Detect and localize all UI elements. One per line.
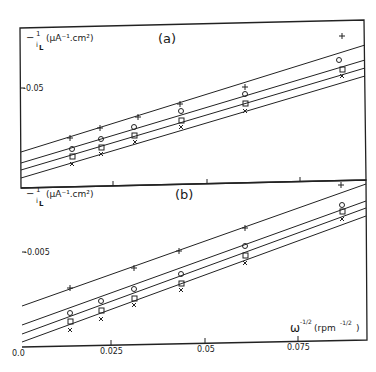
figure: 0.0 0.025 0.05 0.075 -0.05 -0.005 − 1 i … xyxy=(0,0,376,372)
panel-label-b: (b) xyxy=(175,187,193,202)
panel-label-a: (a) xyxy=(158,31,176,46)
x-axis-label: ω -1/2 (rpm -1/2 ) xyxy=(290,318,360,335)
xlabel-close: ) xyxy=(356,323,360,333)
ylabel-numerator: 1 xyxy=(36,186,40,194)
ylabel-units: (μA⁻¹.cm²) xyxy=(46,33,93,43)
marker-square xyxy=(70,67,345,159)
fit-line-plus xyxy=(21,45,365,152)
marker-cross xyxy=(70,74,344,166)
fit-line-circle xyxy=(22,201,366,325)
xlabel-units-exponent: -1/2 xyxy=(340,319,352,326)
ylabel-denominator: i xyxy=(36,197,38,205)
panel-b-markers xyxy=(67,182,345,332)
ylabel-prefix: − xyxy=(26,188,34,199)
fit-line-square xyxy=(21,68,365,170)
ylabel-units: (μA⁻¹.cm²) xyxy=(46,189,93,199)
ylabel-prefix: − xyxy=(26,32,34,43)
marker-circle xyxy=(70,58,342,152)
fit-line-square xyxy=(22,208,366,334)
x-tick-label: 0.025 xyxy=(100,347,123,356)
y-axis-label-b: − 1 i L (μA⁻¹.cm²) xyxy=(26,186,93,208)
fit-line-circle xyxy=(21,60,365,163)
xlabel-exponent: -1/2 xyxy=(300,318,312,325)
y-tick-label-b: -0.005 xyxy=(24,248,50,257)
xlabel-base: ω xyxy=(290,321,300,335)
x-tick-label: 0.0 xyxy=(12,349,25,358)
panel-a-markers xyxy=(67,33,345,166)
xlabel-units: (rpm xyxy=(314,323,336,333)
fit-line-plus xyxy=(22,184,366,306)
panel-b-lines xyxy=(22,184,366,342)
panel-a-lines xyxy=(21,45,365,178)
x-tick-label: 0.05 xyxy=(197,345,215,354)
x-tick-labels: 0.0 0.025 0.05 0.075 xyxy=(12,343,310,358)
ylabel-numerator: 1 xyxy=(36,30,40,38)
y-axis-label-a: − 1 i L (μA⁻¹.cm²) xyxy=(26,30,93,52)
y-tick-label-a: -0.05 xyxy=(23,84,44,93)
ylabel-denominator: i xyxy=(36,41,38,49)
x-tick-label: 0.075 xyxy=(287,343,310,352)
ylabel-subscript: L xyxy=(39,200,44,208)
ylabel-subscript: L xyxy=(39,44,44,52)
